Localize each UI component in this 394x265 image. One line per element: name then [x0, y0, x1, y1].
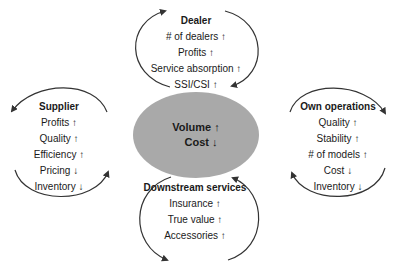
downstream-item: True value ↑	[132, 212, 258, 228]
own-operations-item: Quality ↑	[285, 115, 391, 131]
own-operations-item: Cost ↓	[285, 163, 391, 179]
own-operations-item: # of models ↑	[285, 147, 391, 163]
supplier-item: Quality ↑	[4, 131, 114, 147]
center-cost: Cost ↓	[175, 135, 218, 150]
dealer-item: # of dealers ↑	[140, 29, 252, 45]
downstream-item: Accessories ↑	[132, 228, 258, 244]
supplier-item: Pricing ↓	[4, 163, 114, 179]
own-operations-item: Inventory ↓	[285, 179, 391, 195]
dealer-block: Dealer # of dealers ↑ Profits ↑ Service …	[140, 13, 252, 93]
dealer-item: Profits ↑	[140, 45, 252, 61]
supplier-item: Profits ↑	[4, 115, 114, 131]
downstream-title: Downstream services	[132, 180, 258, 196]
supplier-title: Supplier	[4, 99, 114, 115]
center-volume: Volume ↑	[172, 120, 219, 135]
own-operations-item: Stability ↑	[285, 131, 391, 147]
supplier-item: Efficiency ↑	[4, 147, 114, 163]
downstream-services-block: Downstream services Insurance ↑ True val…	[132, 180, 258, 244]
downstream-item: Insurance ↑	[132, 196, 258, 212]
own-operations-block: Own operations Quality ↑ Stability ↑ # o…	[285, 99, 391, 195]
dealer-title: Dealer	[140, 13, 252, 29]
center-label: Volume ↑ Cost ↓	[133, 92, 259, 178]
own-operations-title: Own operations	[285, 99, 391, 115]
supplier-item: Inventory ↓	[4, 179, 114, 195]
dealer-item: SSI/CSI ↑	[140, 77, 252, 93]
dealer-item: Service absorption ↑	[140, 61, 252, 77]
supplier-block: Supplier Profits ↑ Quality ↑ Efficiency …	[4, 99, 114, 195]
